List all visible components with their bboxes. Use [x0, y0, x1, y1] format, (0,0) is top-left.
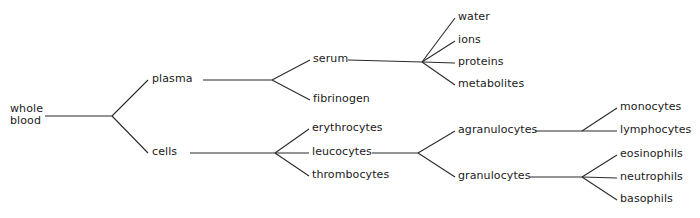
node-label-serum: serum	[313, 53, 348, 65]
edge-fork3-to-ions	[422, 41, 455, 62]
node-label-plasma: plasma	[152, 73, 193, 85]
blood-composition-tree-diagram: whole bloodplasmacellsserumfibrinogenwat…	[0, 0, 700, 218]
node-label-ions: ions	[458, 34, 481, 46]
edge-fork1-to-plasma	[112, 80, 148, 116]
node-label-agranulocytes: agranulocytes	[458, 124, 537, 136]
edge-fork6-to-monocytes	[582, 108, 617, 131]
node-label-fibrinogen: fibrinogen	[313, 93, 370, 105]
node-label-granulocytes: granulocytes	[458, 170, 531, 182]
edge-fork7-to-eosinophils	[582, 155, 617, 177]
node-label-erythrocytes: erythrocytes	[312, 122, 383, 134]
node-label-cells: cells	[152, 146, 177, 158]
edge-fork4-to-erythrocytes	[275, 129, 309, 153]
edge-fork3-to-metabolites	[422, 62, 455, 85]
node-label-water: water	[458, 11, 490, 23]
edge-fork7-to-basophils	[582, 177, 617, 200]
edge-fork3-to-water	[422, 18, 455, 62]
edge-fork1-to-cells	[112, 116, 148, 153]
edge-fork2-to-serum	[272, 60, 310, 80]
node-label-basophils: basophils	[620, 193, 673, 205]
node-label-lymphocytes: lymphocytes	[620, 124, 691, 136]
edge-fork5-to-agranulocytes	[418, 131, 455, 153]
node-label-proteins: proteins	[458, 56, 504, 68]
edge-fork4-to-thrombocytes	[275, 153, 309, 176]
node-label-eosinophils: eosinophils	[620, 148, 683, 160]
edge-fork5-to-granulocytes	[418, 153, 455, 177]
edge-fork3-to-proteins	[422, 62, 455, 63]
node-label-monocytes: monocytes	[620, 101, 681, 113]
edge-fork2-to-fibrinogen	[272, 80, 310, 100]
node-label-neutrophils: neutrophils	[620, 171, 683, 183]
node-label-leucocytes: leucocytes	[312, 146, 372, 158]
tree-edges-layer	[0, 0, 700, 218]
node-label-metabolites: metabolites	[458, 78, 524, 90]
edge-fork7-to-neutrophils	[582, 177, 617, 178]
edge-serum-to-fork3	[348, 60, 422, 62]
node-label-thrombocytes: thrombocytes	[312, 169, 389, 181]
node-label-whole-blood: whole blood	[10, 103, 43, 128]
